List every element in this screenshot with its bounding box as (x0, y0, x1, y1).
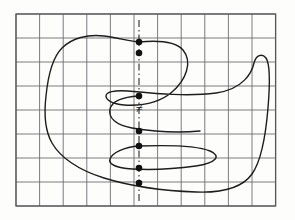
intersection-dot (136, 128, 143, 135)
not-equal-symbol: ≠ (135, 101, 142, 116)
intersection-dot (136, 93, 143, 100)
intersection-dot (136, 143, 143, 150)
figure-root: ≠ (0, 0, 295, 220)
grid-group (16, 14, 276, 206)
intersection-dot (136, 165, 143, 172)
intersection-dot (136, 180, 143, 187)
intersection-dot (136, 39, 143, 46)
grid-horizontal-lines (16, 14, 276, 206)
diagram-canvas: ≠ (0, 0, 295, 220)
intersection-dot (136, 50, 143, 57)
inner-loop-curve (110, 146, 216, 170)
